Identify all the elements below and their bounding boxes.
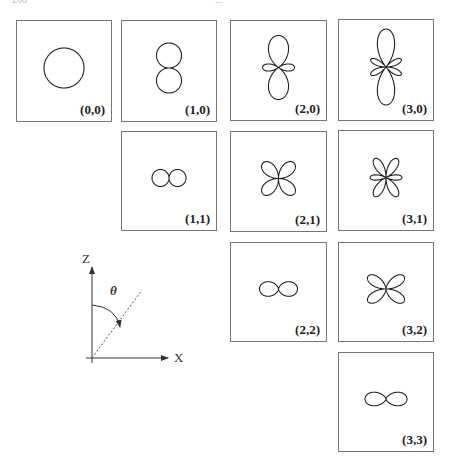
polar-plot-panel: (3,0) (338, 19, 434, 121)
running-title: ... (215, 0, 223, 5)
panel-label: (1,1) (185, 211, 210, 227)
page-number: 200 (12, 0, 27, 5)
polar-plot-panel: (1,0) (121, 20, 217, 122)
polar-plot-panel: (3,2) (338, 242, 434, 342)
theta-arc (92, 305, 120, 327)
panel-label: (2,0) (295, 101, 320, 117)
coordinate-axes-diagram: Z X θ (80, 255, 190, 365)
polar-plot-panel: (2,1) (230, 131, 327, 232)
panel-label: (1,0) (185, 102, 210, 118)
panel-label: (3,1) (402, 211, 427, 227)
polar-plot-panel: (1,1) (121, 131, 217, 231)
panel-label: (3,3) (402, 432, 427, 448)
polar-plot-panel: (0,0) (16, 20, 112, 122)
panel-label: (3,2) (402, 322, 427, 338)
axes-graphic (80, 255, 190, 365)
panel-label: (0,0) (80, 102, 105, 118)
x-axis-label: X (174, 350, 183, 366)
polar-plot-panel: (2,0) (230, 20, 327, 121)
z-axis-label: Z (82, 251, 90, 267)
polar-plot-panel: (2,2) (230, 242, 327, 342)
panel-label: (2,1) (295, 212, 320, 228)
page-header: 200 ... (0, 0, 456, 6)
panel-label: (3,0) (402, 101, 427, 117)
polar-plot-panel: (3,3) (338, 352, 434, 452)
theta-label: θ (110, 283, 117, 299)
panel-label: (2,2) (295, 322, 320, 338)
direction-line (92, 290, 142, 358)
polar-plot-panel: (3,1) (338, 130, 434, 231)
